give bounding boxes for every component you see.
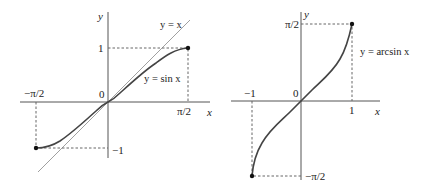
left-tick-y-pos: 1 <box>98 42 104 54</box>
arcsin-endpoint-right <box>350 22 354 26</box>
left-y-label: y <box>97 10 103 22</box>
identity-line-label: y = x <box>160 19 182 30</box>
right-origin-label: 0 <box>293 87 299 99</box>
left-tick-x-pos: π/2 <box>177 105 191 117</box>
arcsin-curve <box>252 24 352 176</box>
right-guide-pos <box>301 24 352 101</box>
diagram-canvas: y x 0 y = x y = sin x 1 −1 π/2 −π/2 y x … <box>0 0 426 188</box>
right-y-label: y <box>303 8 309 20</box>
right-tick-y-neg: −π/2 <box>305 170 325 182</box>
left-x-label: x <box>206 106 212 118</box>
right-tick-y-pos: π/2 <box>285 18 299 30</box>
right-graph-arcsin: y x 0 y = arcsin x π/2 −π/2 1 −1 <box>231 8 410 182</box>
right-tick-x-neg: −1 <box>244 87 256 99</box>
right-tick-x-pos: 1 <box>349 104 355 116</box>
left-graph-sin: y x 0 y = x y = sin x 1 −1 π/2 −π/2 <box>20 10 212 172</box>
left-tick-y-neg: −1 <box>112 144 124 156</box>
left-origin-label: 0 <box>99 88 105 100</box>
right-guide-neg <box>252 101 301 176</box>
arcsin-endpoint-left <box>250 174 254 178</box>
sin-endpoint-left <box>34 146 38 150</box>
left-tick-x-neg: −π/2 <box>24 87 44 99</box>
sin-endpoint-right <box>186 46 190 50</box>
right-x-label: x <box>374 105 380 117</box>
arcsin-curve-label: y = arcsin x <box>360 46 410 57</box>
sin-curve-label: y = sin x <box>144 73 181 84</box>
